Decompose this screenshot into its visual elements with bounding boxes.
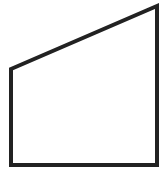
- trapezoid-figure: [0, 0, 168, 173]
- trapezoid-shape: [11, 6, 157, 165]
- diagram-canvas: [0, 0, 168, 173]
